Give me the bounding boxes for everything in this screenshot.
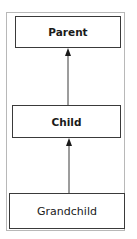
- node-label: Child: [52, 116, 82, 128]
- node-label: Grandchild: [37, 205, 97, 218]
- node-child: Child: [12, 105, 121, 138]
- node-label: Parent: [48, 26, 87, 38]
- node-parent: Parent: [15, 16, 121, 48]
- node-grandchild: Grandchild: [9, 193, 125, 229]
